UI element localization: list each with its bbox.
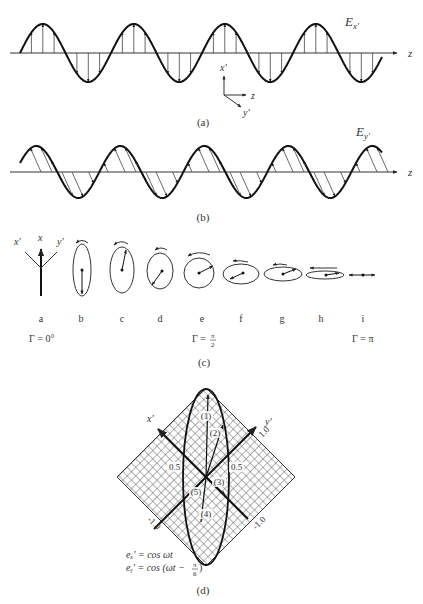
z-label-b: z xyxy=(407,166,413,178)
state-d-ellipse xyxy=(147,248,173,289)
state-label: g xyxy=(280,313,285,324)
panel-d-polarization-ellipse: (1) (2) (3) (4) (5) x' y' 0.5 0.5 1.0 -1… xyxy=(117,388,295,597)
state-label: h xyxy=(319,313,324,324)
tick-right-half: 0.5 xyxy=(231,462,243,472)
state-labels: a b c d e f g h i xyxy=(39,313,365,324)
state-g-ellipse xyxy=(264,264,302,281)
point-1-label: (1) xyxy=(201,411,212,421)
gamma-zero-label: Γ = 0° xyxy=(29,333,54,344)
point-5-label: (5) xyxy=(191,487,202,497)
state-h-ellipse xyxy=(306,268,344,279)
xprime-axis-label: x' xyxy=(146,413,154,424)
equation-ex: eₓ' = cos ωt xyxy=(126,549,173,560)
z-label-a: z xyxy=(407,47,413,59)
axis-label-xprime: x' xyxy=(13,236,21,247)
ey-field-label: Ey' xyxy=(355,124,371,141)
state-label: e xyxy=(200,313,205,324)
state-i-linear xyxy=(349,274,375,277)
point-3-label: (3) xyxy=(214,477,225,487)
caption-a: (a) xyxy=(197,116,210,129)
axis-label-x: x xyxy=(37,232,43,243)
tick-left-half: 0.5 xyxy=(169,462,181,472)
state-b-ellipse xyxy=(73,241,91,297)
svg-text:eᵧ' = cos (ωt −: eᵧ' = cos (ωt − xyxy=(126,562,185,574)
state-e-circle xyxy=(184,253,214,288)
state-label: c xyxy=(120,313,125,324)
state-a-linear: x' x y' xyxy=(13,232,64,296)
svg-text:2: 2 xyxy=(211,341,215,349)
state-label: d xyxy=(158,313,163,324)
svg-text:π: π xyxy=(211,332,215,340)
axis-label-yprime: y' xyxy=(56,236,64,247)
state-label: a xyxy=(39,313,44,324)
svg-text:): ) xyxy=(199,562,202,574)
state-label: f xyxy=(239,313,243,324)
gamma-half-pi-label: Γ = π 2 xyxy=(192,332,216,349)
state-f-ellipse xyxy=(223,261,259,284)
ex-field-label: Ex' xyxy=(344,14,360,31)
panel-a-wave: z Ex' x' z y' (a) xyxy=(10,14,413,129)
triad-x-label: x' xyxy=(219,62,227,73)
triad-y-label: y' xyxy=(242,107,250,118)
caption-b: (b) xyxy=(197,211,210,224)
coordinate-triad: x' z y' xyxy=(219,62,255,118)
state-label: b xyxy=(79,313,84,324)
gamma-pi-label: Γ = π xyxy=(352,333,373,344)
caption-c: (c) xyxy=(198,356,211,369)
yprime-axis-label: y' xyxy=(264,416,272,427)
point-2-label: (2) xyxy=(210,428,221,438)
svg-text:π: π xyxy=(193,561,197,569)
point-4-label: (4) xyxy=(201,509,212,519)
caption-d: (d) xyxy=(197,584,210,597)
state-label: i xyxy=(362,313,365,324)
panel-b-wave: z Ey' (b) xyxy=(10,124,413,224)
panel-c-polarization-states: x' x y' xyxy=(13,232,375,369)
equation-ey: eᵧ' = cos (ωt − π 6 ) xyxy=(126,561,202,578)
polarization-figure: z Ex' x' z y' (a) z Ey' (b) x' x y' xyxy=(0,0,423,604)
svg-text:6: 6 xyxy=(193,570,197,578)
triad-z-label: z xyxy=(250,90,255,101)
svg-text:Γ =: Γ = xyxy=(192,333,206,344)
state-c-ellipse xyxy=(110,242,134,293)
